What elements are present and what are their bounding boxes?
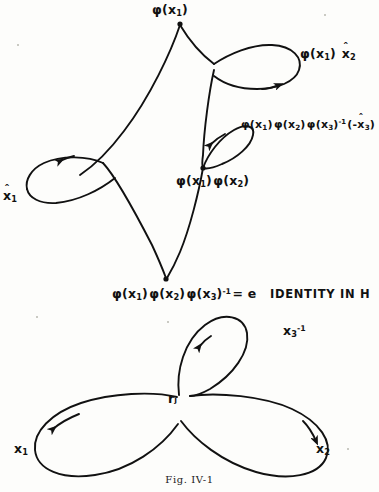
subscript-1: 1 (176, 8, 182, 18)
paper-speck (347, 448, 349, 450)
paper-speck (167, 321, 169, 323)
subscript-2: 2 (324, 447, 330, 457)
label-upper-loop: φ(x1) ˆx2 (300, 48, 356, 62)
superscript-inverse: -1 (222, 287, 231, 296)
phi-symbol: φ (149, 286, 159, 301)
label-middle-vertex: φ(x1) φ(x2) (176, 175, 249, 189)
subscript-3: 3 (211, 292, 217, 302)
phi-symbol: φ (213, 173, 223, 188)
x-hat-1: ˆx (3, 190, 11, 203)
curve-upper-loop-to-middle-vertex (202, 70, 214, 168)
subscript-1: 1 (136, 292, 142, 302)
hat-accent-icon: ˆ (358, 114, 363, 124)
paper-speck (17, 44, 19, 46)
label-petal-top: x3-1 (283, 325, 306, 339)
phi-symbol: φ (187, 286, 197, 301)
phi-symbol: φ (152, 2, 162, 17)
label-petal-right: x2 (316, 443, 330, 457)
curve-apex-to-left-loop (80, 25, 180, 175)
label-identity-in-h: IDENTITY IN H (270, 289, 370, 301)
subscript-3: 3 (365, 123, 370, 132)
figure-caption: Fig. IV-1 (0, 474, 379, 485)
superscript-inverse: -1 (338, 118, 346, 126)
paper-speck (324, 14, 326, 16)
vertex-dot-bottom (163, 276, 168, 281)
subscript-1: 1 (324, 52, 330, 62)
subscript-2: 2 (237, 179, 243, 189)
curve-petal-left (35, 394, 178, 477)
label-basepoint: rⱼ (168, 393, 177, 406)
equals-identity: = e (232, 286, 256, 301)
vertex-dot-middle (200, 165, 205, 170)
arrow-petal-top (199, 336, 211, 347)
vertex-dot-apex (177, 21, 182, 26)
curve-left-loop-upper (27, 157, 103, 189)
x-symbol: x (202, 286, 210, 301)
hat-accent-icon: ˆ (343, 42, 349, 53)
phi-symbol: φ (241, 118, 250, 131)
curve-left-loop-lower (27, 178, 115, 203)
subscript-2: 2 (295, 123, 300, 132)
subscript-1: 1 (22, 447, 28, 457)
paper-speck (36, 316, 38, 318)
phi-symbol: φ (112, 286, 122, 301)
x-symbol: x (316, 46, 324, 61)
x-symbol: x (168, 2, 176, 17)
figure-iv-1: φ(x1) φ(x1) ˆx2 φ(x1) φ(x2) φ(x3)-1 (-ˆx… (0, 0, 379, 492)
subscript-2: 2 (173, 292, 179, 302)
label-left-loop: ˆx1 (3, 190, 17, 204)
phi-symbol: φ (176, 173, 186, 188)
x-symbol: x (128, 286, 136, 301)
label-middle-loop: φ(x1) φ(x2) φ(x3)-1 (-ˆx3) (241, 119, 375, 131)
x-symbol: x (192, 173, 200, 188)
label-petal-left: x1 (14, 443, 28, 457)
phi-symbol: φ (307, 118, 316, 131)
label-bottom-vertex: φ(x1) φ(x2) φ(x3)-1 = e (112, 288, 256, 302)
x-hat-2: ˆx (342, 48, 350, 61)
curve-apex-to-upper-loop (180, 25, 214, 64)
curve-petal-top (178, 317, 247, 396)
curve-middle-loop (203, 126, 253, 168)
x-hat-3: ˆx (357, 119, 364, 130)
figure-line-art (0, 0, 379, 492)
phi-symbol: φ (300, 46, 310, 61)
subscript-1: 1 (262, 123, 267, 132)
curve-upper-loop (214, 45, 300, 89)
subscript-1: 1 (11, 194, 17, 204)
hat-accent-icon: ˆ (4, 184, 10, 195)
label-apex: φ(x1) (152, 4, 188, 18)
subscript-2: 2 (350, 52, 356, 62)
superscript-inverse: -1 (297, 324, 306, 333)
phi-symbol: φ (274, 118, 283, 131)
subscript-3: 3 (328, 123, 333, 132)
arrow-petal-left (53, 414, 79, 429)
subscript-1: 1 (200, 179, 206, 189)
curve-petal-right (181, 395, 328, 477)
